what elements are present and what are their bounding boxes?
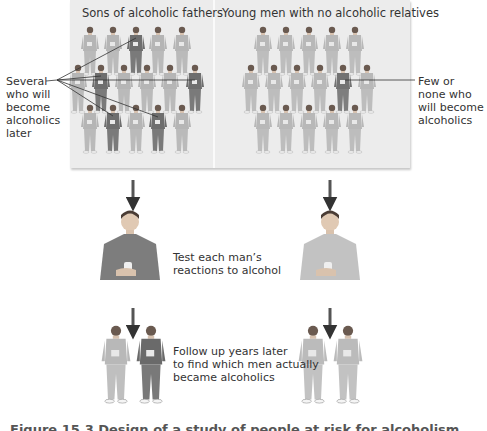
test-step-label: Test each man’s reactions to alcohol — [173, 251, 281, 277]
test-subject-right — [300, 211, 360, 281]
right-annotation: Few or none who will become alcoholics — [418, 75, 484, 127]
test-subject-left — [100, 211, 160, 281]
left-group-figures — [69, 27, 204, 153]
left-annotation: Several who will become alcoholics later — [6, 75, 60, 140]
followup-step-label: Follow up years later to find which men … — [173, 345, 319, 384]
followup-left-pair — [102, 326, 166, 403]
figure-caption: Figure 15.3 Design of a study of people … — [10, 422, 459, 431]
right-group-figures — [242, 27, 376, 153]
